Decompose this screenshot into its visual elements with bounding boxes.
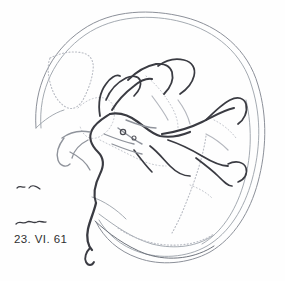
branch-loop-right xyxy=(228,162,247,182)
sinus-dots-mid xyxy=(146,76,178,128)
fine-branch-d xyxy=(112,144,142,154)
transverse-sinus xyxy=(172,136,206,233)
squiggle-mark-lower xyxy=(16,221,46,224)
squiggle-mark-upper xyxy=(17,186,40,189)
mca-branch-frontal xyxy=(99,75,120,116)
skull-outline-group xyxy=(36,12,265,263)
posterior-branch-lower xyxy=(168,140,228,166)
facial-branch xyxy=(57,138,70,166)
fine-branch-f xyxy=(178,100,190,124)
internal-carotid-siphon xyxy=(90,114,110,203)
ophthalmic-branch xyxy=(62,131,90,138)
skull-base-line xyxy=(95,221,214,258)
fine-branch-e xyxy=(152,96,168,120)
carotid-descending xyxy=(87,203,96,250)
angiogram-figure: .sk{fill:none;stroke:#8c9099;stroke-widt… xyxy=(0,0,285,281)
sphenoid-sinus-outline xyxy=(78,97,115,138)
skull-vault-inner xyxy=(41,17,259,256)
frontal-sinus-outline xyxy=(48,52,93,109)
date-label: 23. VI. 61 xyxy=(14,233,67,245)
temporal-floor xyxy=(92,197,126,219)
posterior-branch-main xyxy=(162,108,234,134)
middle-cerebral-trunk xyxy=(110,113,190,136)
skull-base-line-2 xyxy=(99,214,212,247)
sinus-branch xyxy=(190,185,212,198)
temporal-branch xyxy=(150,146,190,176)
occipital-dots xyxy=(214,120,236,138)
skull-vault-inner-2 xyxy=(202,100,250,244)
fine-branch-g xyxy=(206,134,228,150)
annotation-marks-group xyxy=(16,186,46,224)
vessel-tree-group xyxy=(57,59,246,265)
fine-branch-h xyxy=(72,140,88,158)
